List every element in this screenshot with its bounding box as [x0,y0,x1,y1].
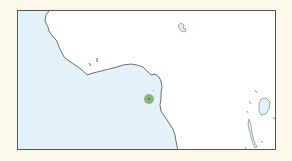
map-canvas[interactable] [18,11,276,150]
ocean-area [18,11,178,150]
lake-tanganyika-outline [248,119,257,148]
lake-small-1 [255,90,257,93]
lake-small-6 [273,117,275,119]
lake-outline [178,23,186,32]
lake-volta-1 [89,63,91,66]
lake-small-5 [245,147,247,150]
lake-victoria-outline [259,98,270,115]
lake-small-4 [261,141,263,143]
lake-small-2 [249,101,251,104]
location-marker-core [148,98,150,100]
lake-small-3 [247,111,248,113]
map-frame[interactable] [17,10,276,150]
